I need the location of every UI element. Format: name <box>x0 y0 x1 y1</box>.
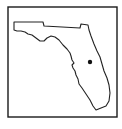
florida-outline <box>14 22 110 110</box>
map-canvas <box>0 0 122 129</box>
location-marker-dot <box>88 60 92 64</box>
florida-locator-map <box>0 0 122 129</box>
